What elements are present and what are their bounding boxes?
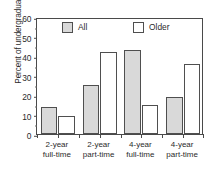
y-axis-title: Percent of undergraduates (14, 0, 23, 99)
y-axis-tick-label: 10 (22, 112, 33, 120)
x-axis-category-label-3: 4-yearfull-time (120, 140, 162, 160)
x-axis-tick (79, 134, 80, 138)
category-label-line: 4-year (161, 140, 203, 150)
bar-all-4 (166, 97, 183, 134)
x-axis-tick (58, 134, 59, 138)
y-axis-tick: 50 (22, 34, 37, 42)
y-axis-tick: 0 (27, 132, 37, 140)
x-axis-category-label-2: 2-yearpart-time (78, 140, 120, 160)
y-axis-tick-label: 20 (22, 93, 33, 101)
bar-older-3 (142, 105, 159, 134)
y-axis-tick: 30 (22, 73, 37, 81)
bar-chart: Percent of undergraduates 0102030405060 … (0, 0, 210, 172)
y-axis-tick-label: 0 (27, 132, 34, 140)
plot-area: 0102030405060 (36, 18, 203, 135)
x-axis-category-label-4: 4-yearpart-time (161, 140, 203, 160)
x-axis-tick (141, 134, 142, 138)
x-axis-tick (183, 134, 184, 138)
y-axis-tick-label: 60 (22, 15, 33, 23)
bar-older-4 (184, 64, 201, 134)
category-label-line: part-time (161, 150, 203, 160)
bar-all-3 (124, 50, 141, 134)
category-label-line: 2-year (36, 140, 78, 150)
bar-older-1 (58, 116, 75, 134)
x-axis-tick (203, 134, 204, 138)
category-label-line: full-time (36, 150, 78, 160)
y-axis-tick: 20 (22, 93, 37, 101)
category-label-line: part-time (78, 150, 120, 160)
category-label-line: full-time (120, 150, 162, 160)
bars-layer (37, 19, 202, 134)
y-axis-tick: 40 (22, 54, 37, 62)
y-axis-tick: 10 (22, 112, 37, 120)
category-label-line: 4-year (120, 140, 162, 150)
x-axis-tick (121, 134, 122, 138)
y-axis-tick-label: 40 (22, 54, 33, 62)
y-axis-tick: 60 (22, 15, 37, 23)
bar-all-1 (41, 107, 58, 134)
category-label-line: 2-year (78, 140, 120, 150)
y-axis-tick-label: 30 (22, 73, 33, 81)
x-axis-tick (100, 134, 101, 138)
x-axis-category-label-1: 2-yearfull-time (36, 140, 78, 160)
x-axis-tick (37, 134, 38, 138)
bar-older-2 (100, 52, 117, 134)
x-axis-category-labels: 2-yearfull-time2-yearpart-time4-yearfull… (36, 140, 203, 168)
bar-all-2 (83, 85, 100, 134)
x-axis-tick (162, 134, 163, 138)
y-axis-tick-label: 50 (22, 34, 33, 42)
